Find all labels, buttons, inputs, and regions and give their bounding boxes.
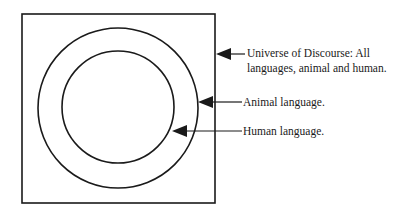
human-arrowhead-icon — [172, 125, 187, 137]
human-arrow — [172, 125, 242, 137]
universe-box — [22, 14, 215, 203]
animal-arrowhead-icon — [198, 96, 213, 108]
human-language-circle — [62, 51, 174, 163]
animal-language-label: Animal language. — [243, 95, 325, 109]
animal-arrow — [198, 96, 242, 108]
universe-label-line1: Universe of Discourse: All — [247, 46, 370, 60]
universe-label-line2: languages, animal and human. — [247, 61, 387, 75]
human-language-label: Human language. — [243, 124, 324, 138]
universe-arrowhead-icon — [216, 48, 231, 60]
diagram-canvas — [0, 0, 405, 214]
universe-arrow — [216, 48, 245, 60]
